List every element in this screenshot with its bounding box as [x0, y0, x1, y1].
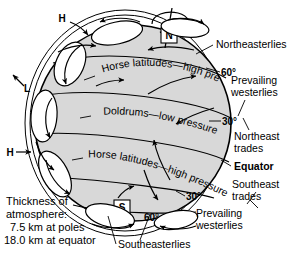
caption-line-4: 18.0 km at equator	[4, 234, 96, 246]
lat-30n-label: 30°	[222, 116, 237, 127]
southeast-trades-line1: Southeast	[232, 178, 279, 190]
prevailing-westerlies-n-line1: Prevailing	[231, 74, 277, 86]
prevailing-westerlies-s-line2: westerlies	[195, 219, 243, 231]
equator-label: Equator	[234, 160, 274, 172]
wind-label-prevailing-westerlies-south: Prevailing westerlies	[195, 200, 258, 231]
southeasterlies-label: Southeasterlies	[118, 238, 190, 250]
caption-line-3: 7.5 km at poles	[10, 221, 85, 233]
diagram-canvas: N S	[0, 0, 304, 256]
lat-60s-label: 60°	[144, 212, 159, 223]
pressure-marker-h-top: H	[58, 13, 88, 35]
prevailing-westerlies-n-line2: westerlies	[230, 86, 278, 98]
atmospheric-circulation-diagram: N S	[0, 0, 304, 256]
wind-label-prevailing-westerlies-north: Prevailing westerlies	[230, 74, 278, 116]
lat-30s-label: 30°	[186, 191, 201, 202]
caption-line-2: atmosphere:	[6, 208, 67, 220]
h-label-left: H	[6, 147, 13, 158]
l-label-left: L	[24, 83, 30, 94]
southeast-trades-line2: trades	[232, 190, 261, 202]
caption-line-1: Thickness of	[6, 195, 69, 207]
northeast-trades-line1: Northeast	[234, 130, 280, 142]
h-label-top: H	[58, 13, 65, 24]
northeasterlies-label: Northeasterlies	[216, 38, 287, 50]
prevailing-westerlies-s-line1: Prevailing	[196, 207, 242, 219]
pressure-marker-l-left: L	[13, 75, 30, 94]
wind-label-southeast-trades: Southeast trades	[232, 178, 279, 204]
wind-label-northeasterlies: Northeasterlies	[196, 38, 287, 54]
northeast-trades-line2: trades	[234, 142, 263, 154]
wind-label-northeast-trades: Northeast trades	[234, 118, 280, 154]
